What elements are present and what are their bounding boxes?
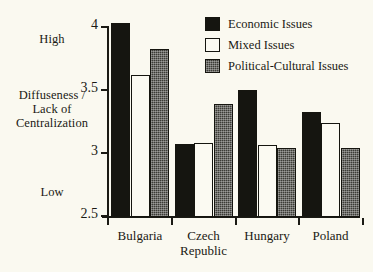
- legend-item-political[interactable]: Political-Cultural Issues: [205, 55, 348, 76]
- bar-chart: High Diffuseness / Lack of Centralizatio…: [0, 0, 373, 272]
- bar-political: [341, 148, 360, 217]
- bar-mixed: [258, 145, 277, 217]
- legend-item-mixed[interactable]: Mixed Issues: [205, 34, 348, 55]
- y-tick-label: 3.5: [81, 80, 99, 96]
- legend-item-economic[interactable]: Economic Issues: [205, 13, 348, 34]
- x-tick-origin: [107, 218, 109, 225]
- y-tick: 3.5: [101, 89, 107, 91]
- y-tick-label: 4: [91, 17, 98, 33]
- x-tick: [235, 218, 237, 225]
- y-tick: 3: [101, 152, 107, 154]
- y-tick: 2.5: [101, 215, 107, 217]
- y-tick-label: 2.5: [81, 206, 99, 222]
- axis-anchor-low: Low: [8, 185, 96, 199]
- bar-mixed: [131, 75, 150, 217]
- bar-political: [277, 148, 296, 217]
- bar-economic: [175, 144, 194, 217]
- y-tick: 4: [101, 26, 107, 28]
- legend-swatch-icon: [205, 38, 220, 52]
- x-tick: [362, 218, 364, 225]
- legend-swatch-icon: [205, 59, 220, 73]
- x-tick: [298, 218, 300, 225]
- x-tick: [171, 218, 173, 225]
- bar-economic: [111, 23, 130, 217]
- legend-label: Economic Issues: [228, 17, 312, 31]
- y-axis-line: [107, 26, 109, 217]
- bar-political: [214, 104, 233, 217]
- bar-mixed: [194, 143, 213, 217]
- legend-label: Mixed Issues: [228, 38, 294, 52]
- legend: Economic IssuesMixed IssuesPolitical-Cul…: [205, 13, 348, 76]
- y-tick-label: 3: [91, 143, 98, 159]
- bar-economic: [238, 90, 257, 217]
- bar-political: [150, 49, 169, 217]
- bar-mixed: [321, 123, 340, 218]
- legend-label: Political-Cultural Issues: [228, 59, 348, 73]
- category-label: Poland: [286, 228, 373, 243]
- legend-swatch-icon: [205, 17, 220, 31]
- bar-economic: [302, 112, 321, 217]
- axis-anchor-high: High: [8, 32, 96, 46]
